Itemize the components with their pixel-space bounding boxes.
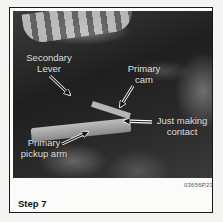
- step-caption: Step 7: [18, 198, 47, 209]
- callout-arrows: [0, 0, 223, 222]
- image-code: 03656P23: [184, 182, 213, 188]
